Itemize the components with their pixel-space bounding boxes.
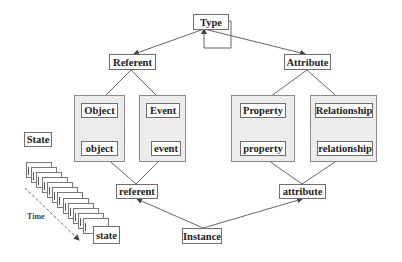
node-attribute-type: Attribute [284, 54, 331, 70]
node-state-instance: state [93, 226, 120, 244]
node-attribute-instance: attribute [279, 184, 326, 199]
node-event-instance: event [151, 141, 181, 156]
arrow-type-referent [134, 29, 204, 54]
node-relationship-instance: relationship [317, 141, 373, 156]
arrow-instance-attribute [203, 199, 302, 228]
arrow-instance-referent [137, 199, 203, 228]
arrow-type-attribute [204, 29, 305, 54]
node-property-type: Property [240, 103, 286, 118]
node-event-type: Event [146, 103, 180, 118]
node-relationship-type: Relationship [315, 103, 373, 118]
node-instance: Instance [182, 228, 222, 244]
ontology-diagram: Type Referent Attribute Object Event Pro… [0, 0, 402, 262]
node-property-instance: property [240, 141, 286, 156]
node-object-type: Object [81, 103, 118, 118]
node-referent-type: Referent [109, 54, 156, 70]
node-object-instance: object [81, 141, 118, 156]
node-referent-instance: referent [116, 184, 158, 199]
node-type: Type [193, 14, 229, 30]
time-label: Time [27, 212, 45, 221]
node-state-type: State [24, 132, 52, 147]
